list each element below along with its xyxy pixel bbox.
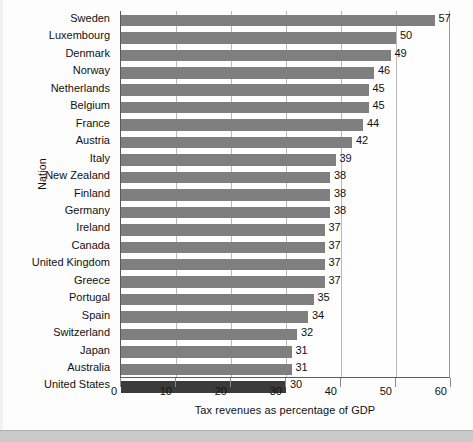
bar-value-label: 37 xyxy=(325,239,341,251)
category-label: New Zealand xyxy=(45,169,110,186)
bar-value-label: 34 xyxy=(308,309,324,321)
category-label-text: Spain xyxy=(82,309,110,322)
category-label: Luxembourg xyxy=(49,29,110,46)
category-label-text: Belgium xyxy=(70,99,110,112)
category-label: Germany xyxy=(65,204,110,221)
bar-value-label: 38 xyxy=(330,169,346,181)
bar xyxy=(121,154,336,166)
category-label-text: Netherlands xyxy=(51,82,110,95)
bar-value-label: 37 xyxy=(325,256,341,268)
category-label-text: Japan xyxy=(80,344,110,357)
category-label-text: Sweden xyxy=(70,12,110,25)
category-label: France xyxy=(76,117,110,134)
bar-value-label: 38 xyxy=(330,187,346,199)
x-axis-tick-mark xyxy=(285,378,286,387)
category-label-text: France xyxy=(76,117,110,130)
bar-value-label: 35 xyxy=(314,291,330,303)
bar-row: 38 xyxy=(121,171,451,188)
bar-row: 34 xyxy=(121,310,451,327)
bar-row: 44 xyxy=(121,118,451,135)
bar-value-label: 32 xyxy=(297,326,313,338)
bar-value-label: 42 xyxy=(352,134,368,146)
category-label-text: Germany xyxy=(65,204,110,217)
bar xyxy=(121,346,292,358)
x-axis-tick-label: 20 xyxy=(215,385,230,397)
category-label-text: Greece xyxy=(74,274,110,287)
bar xyxy=(121,119,363,131)
bar xyxy=(121,102,369,114)
bar-value-label: 37 xyxy=(325,274,341,286)
x-axis-tick-label: 10 xyxy=(160,385,175,397)
bar xyxy=(121,259,325,271)
bar xyxy=(121,276,325,288)
bar-row: 49 xyxy=(121,48,451,65)
bar xyxy=(121,242,325,254)
bar xyxy=(121,224,325,236)
bar-row: 32 xyxy=(121,328,451,345)
category-label: Belgium xyxy=(70,99,110,116)
bar-value-label: 45 xyxy=(369,99,385,111)
bar-row: 39 xyxy=(121,153,451,170)
bar xyxy=(121,294,314,306)
category-label: Australia xyxy=(67,361,110,378)
bar-row: 42 xyxy=(121,136,451,153)
category-label-text: Canada xyxy=(71,239,110,252)
category-label: United Kingdom xyxy=(32,256,110,273)
bar-row: 38 xyxy=(121,188,451,205)
x-axis-tick-label: 0 xyxy=(111,385,120,397)
category-label-text: Austria xyxy=(76,134,110,147)
bar-row: 37 xyxy=(121,275,451,292)
bar-value-label: 45 xyxy=(369,82,385,94)
category-label: Canada xyxy=(71,239,110,256)
category-label-text: New Zealand xyxy=(45,169,110,182)
bar-row: 37 xyxy=(121,223,451,240)
x-axis-tick-mark xyxy=(230,378,231,387)
category-label: Italy xyxy=(90,152,110,169)
x-axis-tick-label: 50 xyxy=(380,385,395,397)
bar-row: 38 xyxy=(121,205,451,222)
bar xyxy=(121,15,435,27)
bar xyxy=(121,311,308,323)
x-axis-title: Tax revenues as percentage of GDP xyxy=(120,404,450,416)
category-label: Ireland xyxy=(76,221,110,238)
bar xyxy=(121,189,330,201)
category-label: Finland xyxy=(74,187,110,204)
bar xyxy=(121,207,330,219)
category-label-text: Italy xyxy=(90,152,110,165)
bar-value-label: 31 xyxy=(292,344,308,356)
bar-row: 45 xyxy=(121,101,451,118)
category-label-text: Australia xyxy=(67,361,110,374)
scan-artifact-bottom-band xyxy=(0,430,473,442)
bar xyxy=(121,32,396,44)
category-label-text: Ireland xyxy=(76,221,110,234)
category-label: Denmark xyxy=(65,47,110,64)
x-axis: 0102030405060 xyxy=(120,378,450,400)
category-label-text: United Kingdom xyxy=(32,256,110,269)
bar-row: 57 xyxy=(121,14,451,31)
category-label: Japan xyxy=(80,344,110,361)
category-label: Sweden xyxy=(70,12,110,29)
category-label: Austria xyxy=(76,134,110,151)
bar xyxy=(121,67,374,79)
category-label-text: Luxembourg xyxy=(49,29,110,42)
bar xyxy=(121,50,391,62)
bar-value-label: 49 xyxy=(391,47,407,59)
x-axis-tick-label: 40 xyxy=(325,385,340,397)
bar-value-label: 44 xyxy=(363,117,379,129)
x-axis-tick-mark xyxy=(450,378,451,387)
bar-row: 35 xyxy=(121,293,451,310)
category-label-text: Finland xyxy=(74,187,110,200)
category-label: Norway xyxy=(73,64,110,81)
plot-area: 5750494645454442393838383737373735343231… xyxy=(120,11,450,378)
category-label-text: Switzerland xyxy=(53,326,110,339)
category-label-text: Denmark xyxy=(65,47,110,60)
x-axis-tick-mark xyxy=(120,378,121,387)
bar-value-label: 37 xyxy=(325,221,341,233)
bar xyxy=(121,329,297,341)
bar-value-label: 50 xyxy=(396,29,412,41)
category-label: Spain xyxy=(82,309,110,326)
bar-value-label: 46 xyxy=(374,64,390,76)
category-label: Netherlands xyxy=(51,82,110,99)
category-label-text: Norway xyxy=(73,64,110,77)
